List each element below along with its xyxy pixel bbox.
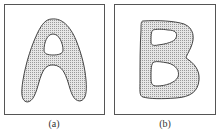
figure-canvas bbox=[0, 0, 220, 134]
panel-b bbox=[115, 5, 216, 115]
caption-b: (b) bbox=[145, 118, 185, 129]
caption-a: (a) bbox=[34, 118, 74, 129]
panel-a bbox=[5, 5, 105, 115]
